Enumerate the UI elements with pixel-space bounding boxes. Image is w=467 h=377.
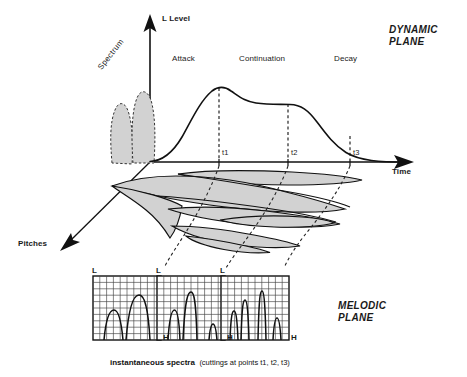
tick-label-t3: t3 [353,148,359,157]
figure-caption-normal: (cuttings at points t1, t2, t3) [199,358,289,367]
melodic-plane-shapes [112,171,362,253]
spectrum-box-3 [221,276,289,340]
spectrum-box-3-low-label: L [220,266,225,275]
spectrum-box-2-high-label: H [227,333,233,342]
melodic-plane-label-line1: MELODIC [338,300,386,312]
spectrum-box-1-high-label: H [163,333,169,342]
tick-label-t1: t1 [222,148,228,157]
spectrum-box-2-low-label: L [156,266,161,275]
figure-caption: instantaneous spectra (cuttings at point… [110,351,290,369]
x-axis [150,155,414,169]
spectrum-box-1-low-label: L [92,266,97,275]
tick-droplines [219,88,350,159]
z-axis-arrow-icon [60,233,80,251]
phase-label-continuation: Continuation [239,54,285,63]
z-axis-label: Pitches [18,239,47,248]
diagram-svg [0,0,467,377]
spectrum-silhouettes [111,92,155,164]
figure-caption-bold: instantaneous spectra [110,358,195,367]
spectrum-box-3-high-label: H [291,333,297,342]
z-axis [60,162,150,251]
y-axis-label: L Level [162,14,190,23]
figure-canvas: L Level Time Pitches Spectrum Attack Con… [0,0,467,377]
phase-label-attack: Attack [172,54,195,63]
spectrum-box-2 [157,276,225,340]
tick-label-t2: t2 [291,148,297,157]
spectrum-box-1 [93,276,161,340]
melodic-plane-label-line2: PLANE [338,312,373,324]
x-axis-label: Time [392,167,411,176]
dynamic-plane-label-line1: DYNAMIC [389,24,438,36]
amplitude-envelope-curve [150,88,406,162]
dynamic-plane-label-line2: PLANE [389,36,424,48]
phase-label-decay: Decay [334,54,357,63]
